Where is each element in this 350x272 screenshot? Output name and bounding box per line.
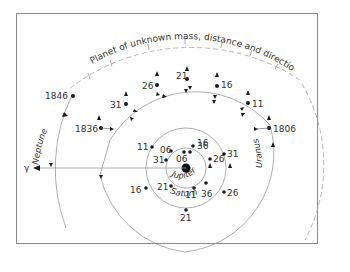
svg-text:26: 26 bbox=[142, 81, 154, 91]
svg-text:1836: 1836 bbox=[75, 124, 98, 134]
gamma-symbol: γ bbox=[24, 163, 30, 173]
uranus-arrow bbox=[271, 142, 275, 147]
svg-text:21: 21 bbox=[180, 213, 191, 223]
uranus-label: Uranus bbox=[250, 137, 264, 168]
svg-text:21: 21 bbox=[157, 182, 168, 192]
solar-system-diagram: Planet of unknown mass, distance and dir… bbox=[0, 0, 350, 272]
neptune-label: Neptune bbox=[30, 127, 49, 165]
svg-text:11: 11 bbox=[185, 190, 196, 200]
gamma-arrow-icon bbox=[33, 165, 40, 171]
uranus-left-arrow bbox=[99, 175, 103, 179]
svg-text:11: 11 bbox=[252, 99, 263, 109]
svg-text:26: 26 bbox=[227, 188, 239, 198]
svg-text:06: 06 bbox=[160, 145, 172, 155]
neptune-1846-dot bbox=[71, 94, 75, 98]
svg-text:16: 16 bbox=[130, 185, 142, 195]
svg-text:06: 06 bbox=[176, 154, 188, 164]
svg-text:36: 36 bbox=[201, 189, 213, 199]
uranus-positions: 1836 31 26 21 16 11 1806 bbox=[75, 66, 296, 134]
svg-text:31: 31 bbox=[153, 155, 164, 165]
svg-text:1806: 1806 bbox=[273, 124, 296, 134]
svg-text:11: 11 bbox=[137, 142, 148, 152]
svg-text:31: 31 bbox=[110, 100, 121, 110]
svg-text:26: 26 bbox=[213, 154, 225, 164]
svg-text:36: 36 bbox=[197, 141, 209, 151]
neptune-arrow-2 bbox=[49, 163, 53, 167]
unknown-planet-label: Planet of unknown mass, distance and dir… bbox=[0, 0, 297, 73]
svg-text:21: 21 bbox=[176, 71, 187, 81]
svg-text:16: 16 bbox=[221, 80, 233, 90]
svg-text:31: 31 bbox=[227, 149, 238, 159]
saturn-positions: 36 06 11 31 26 16 21 11 bbox=[130, 141, 239, 223]
neptune-1846-label: 1846 bbox=[45, 91, 68, 101]
